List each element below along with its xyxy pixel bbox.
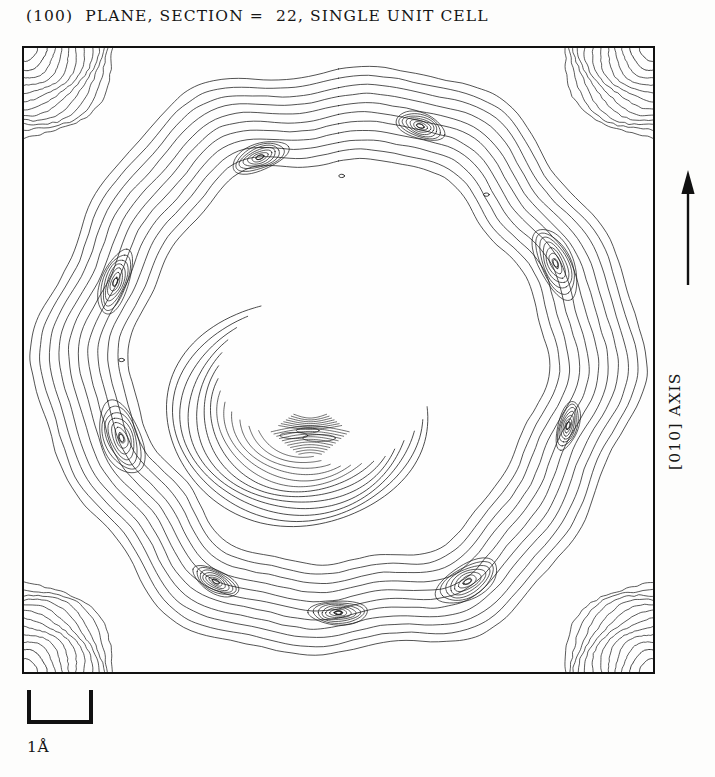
scale-bar-left-tick <box>27 690 31 722</box>
scale-bar: 1Å <box>27 690 93 756</box>
scale-bar-label: 1Å <box>27 738 93 756</box>
figure-root: (100) PLANE, SECTION = 22, SINGLE UNIT C… <box>0 0 715 777</box>
contour-plot-frame <box>22 46 655 674</box>
scale-bar-baseline <box>27 720 93 725</box>
scale-bar-bracket <box>27 690 93 724</box>
scale-bar-right-tick <box>89 690 93 722</box>
y-axis-label: [010] AXIS <box>666 372 684 470</box>
figure-title: (100) PLANE, SECTION = 22, SINGLE UNIT C… <box>26 7 489 25</box>
up-arrow-icon <box>676 170 700 285</box>
contour-map <box>24 48 653 672</box>
